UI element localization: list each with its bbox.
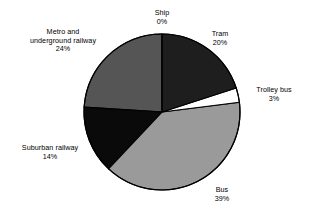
pie-label-metro-and-underground-railway: Metro and underground railway 24% [8,28,118,54]
pie-label-tram: Tram 20% [196,30,244,47]
pie-label-metro-value: 24% [8,45,118,54]
pie-chart-figure: Ship 0% Tram 20% Trolley bus 3% Bus 39% … [0,0,313,220]
pie-label-ship: Ship 0% [134,9,190,26]
pie-label-bus-value: 39% [200,195,244,204]
pie-label-tram-value: 20% [196,39,244,48]
pie-label-trolley-bus-value: 3% [240,95,308,104]
pie-label-bus: Bus 39% [200,186,244,203]
pie-label-suburban-railway-value: 14% [7,153,93,162]
pie-label-trolley-bus: Trolley bus 3% [240,86,308,103]
pie-label-suburban-railway: Suburban railway 14% [7,144,93,161]
pie-label-ship-value: 0% [134,18,190,27]
